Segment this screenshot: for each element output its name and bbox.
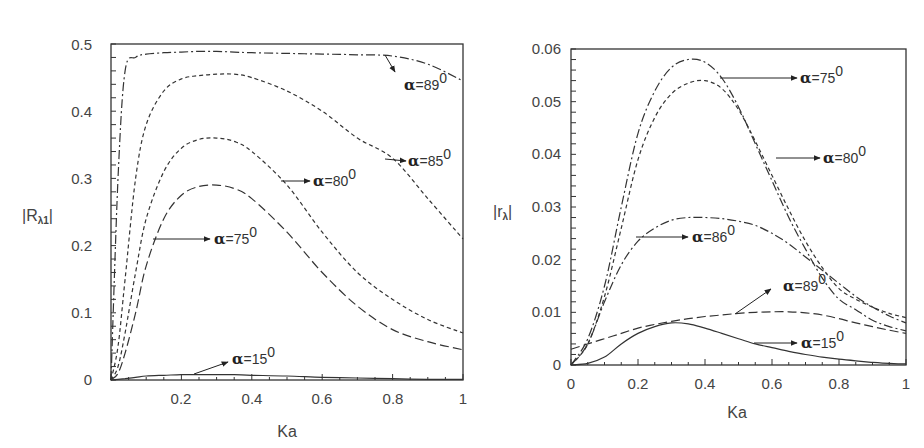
left-y-axis-label: |Rλ1| xyxy=(22,207,53,226)
right-plot-frame xyxy=(571,49,906,365)
figure: 0 0.1 0.2 0.3 0.4 0.5 0.2 0.4 0.6 0.8 1 … xyxy=(0,0,924,448)
right-x-axis-label: Ka xyxy=(727,404,747,421)
left-ytick-label: 0.4 xyxy=(71,103,92,120)
left-xtick-label: 1 xyxy=(459,390,467,407)
right-annotation-75: α=750 xyxy=(720,63,843,87)
svg-text:α=750: α=750 xyxy=(214,224,257,248)
left-chart: 0 0.1 0.2 0.3 0.4 0.5 0.2 0.4 0.6 0.8 1 … xyxy=(22,36,467,440)
left-ytick-label: 0.2 xyxy=(71,237,92,254)
left-xtick-label: 0.4 xyxy=(242,390,263,407)
left-ytick-label: 0.1 xyxy=(71,304,92,321)
svg-text:α=890: α=890 xyxy=(783,271,826,295)
curve-α=86⁰ xyxy=(571,217,906,365)
left-xtick-label: 0.8 xyxy=(383,390,404,407)
right-annotation-15: α=150 xyxy=(754,328,844,352)
right-ytick-label: 0.04 xyxy=(532,145,561,162)
right-xtick-label: 0.6 xyxy=(762,375,783,392)
left-annotation-89: α=890 xyxy=(385,55,447,94)
left-curves xyxy=(111,51,463,380)
left-ytick-label: 0.3 xyxy=(71,170,92,187)
svg-text:α=800: α=800 xyxy=(313,166,356,190)
left-annotation-85: α=850 xyxy=(385,146,451,170)
curve-α=80⁰ xyxy=(111,138,463,380)
right-chart: 0 0.01 0.02 0.03 0.04 0.05 0.06 0 0.2 0.… xyxy=(493,40,910,421)
left-plot-frame xyxy=(111,44,463,380)
right-y-axis-label: |rλ| xyxy=(493,203,512,222)
curve-α=15⁰ xyxy=(571,323,906,365)
left-ytick-label: 0.5 xyxy=(71,36,92,53)
right-xtick-label: 0 xyxy=(567,375,575,392)
right-annotation-86: α=860 xyxy=(636,222,735,246)
right-xtick-label: 0.8 xyxy=(829,375,850,392)
left-xtick-label: 0.2 xyxy=(171,390,192,407)
right-ytick-label: 0.01 xyxy=(532,303,561,320)
right-axis-ticks xyxy=(571,49,906,365)
right-curves xyxy=(571,59,906,365)
svg-text:α=850: α=850 xyxy=(408,146,451,170)
left-xtick-label: 0.6 xyxy=(312,390,333,407)
svg-text:α=750: α=750 xyxy=(800,63,843,87)
left-annotation-80: α=800 xyxy=(281,166,356,190)
curve-α=89⁰ xyxy=(111,51,463,380)
right-xtick-label: 0.2 xyxy=(628,375,649,392)
left-axis-ticks xyxy=(111,44,463,380)
right-annotation-80: α=800 xyxy=(776,143,866,167)
svg-text:α=890: α=890 xyxy=(404,70,447,94)
right-ytick-label: 0.02 xyxy=(532,251,561,268)
left-annotation-15: α=150 xyxy=(194,344,275,374)
svg-text:α=150: α=150 xyxy=(232,344,275,368)
left-ytick-label: 0 xyxy=(84,371,92,388)
right-xtick-label: 1 xyxy=(902,375,910,392)
right-annotation-89: α=890 xyxy=(735,271,826,314)
right-xtick-label: 0.4 xyxy=(695,375,716,392)
svg-text:α=150: α=150 xyxy=(801,328,844,352)
left-x-axis-label: Ka xyxy=(277,423,297,440)
curve-α=75⁰ xyxy=(571,59,906,365)
right-ytick-label: 0.05 xyxy=(532,93,561,110)
svg-text:α=800: α=800 xyxy=(823,143,866,167)
curve-α=85⁰ xyxy=(111,74,463,380)
right-ytick-label: 0.06 xyxy=(532,40,561,57)
right-ytick-label: 0 xyxy=(553,356,561,373)
left-annotation-75: α=750 xyxy=(153,224,257,248)
curve-α=75⁰ xyxy=(111,185,463,380)
svg-text:α=860: α=860 xyxy=(692,222,735,246)
right-ytick-label: 0.03 xyxy=(532,198,561,215)
